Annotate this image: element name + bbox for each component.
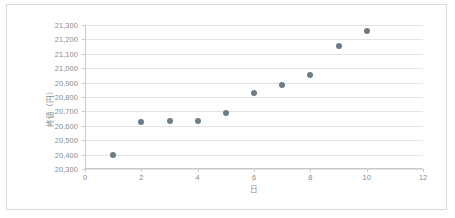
y-axis-tick-label: 20,500: [34, 136, 78, 145]
x-axis-title: 日: [85, 183, 423, 194]
data-point[interactable]: [336, 43, 342, 49]
x-axis-tick-label: 2: [126, 173, 156, 182]
x-axis-tick-mark: [198, 169, 199, 172]
data-point[interactable]: [364, 28, 370, 34]
x-axis-tick-label: 10: [352, 173, 382, 182]
y-axis-tick-label: 21,200: [34, 35, 78, 44]
y-axis-tick-label: 20,800: [34, 93, 78, 102]
gridline: [85, 97, 423, 98]
y-axis-line: [85, 25, 86, 169]
x-axis-tick-label: 4: [183, 173, 213, 182]
gridline: [85, 140, 423, 141]
data-point[interactable]: [223, 110, 229, 116]
plot-area: [85, 25, 423, 169]
x-axis-tick-label: 8: [295, 173, 325, 182]
gridline: [85, 83, 423, 84]
x-axis-tick-mark: [141, 169, 142, 172]
y-axis-tick-label: 20,900: [34, 78, 78, 87]
x-axis-tick-mark: [254, 169, 255, 172]
gridline: [85, 39, 423, 40]
x-axis-tick-label: 0: [70, 173, 100, 182]
data-point[interactable]: [307, 72, 313, 78]
y-axis-tick-label: 20,600: [34, 121, 78, 130]
y-axis-tick-label: 21,100: [34, 49, 78, 58]
data-point[interactable]: [110, 152, 116, 158]
gridline: [85, 111, 423, 112]
x-axis-tick-label: 6: [239, 173, 269, 182]
y-axis-tick-label: 21,000: [34, 64, 78, 73]
chart-frame: 終値（円） 21,30021,20021,10021,00020,90020,8…: [6, 4, 447, 210]
gridline: [85, 54, 423, 55]
x-axis-tick-label: 12: [408, 173, 438, 182]
gridline: [85, 25, 423, 26]
gridline: [85, 68, 423, 69]
gridline: [85, 126, 423, 127]
y-axis-tick-label: 20,700: [34, 107, 78, 116]
x-axis-tick-mark: [423, 169, 424, 172]
x-axis-tick-mark: [85, 169, 86, 172]
gridline: [85, 155, 423, 156]
x-axis-tick-mark: [367, 169, 368, 172]
x-axis-tick-mark: [310, 169, 311, 172]
y-axis-tick-label: 21,300: [34, 21, 78, 30]
y-axis-tick-label: 20,400: [34, 150, 78, 159]
